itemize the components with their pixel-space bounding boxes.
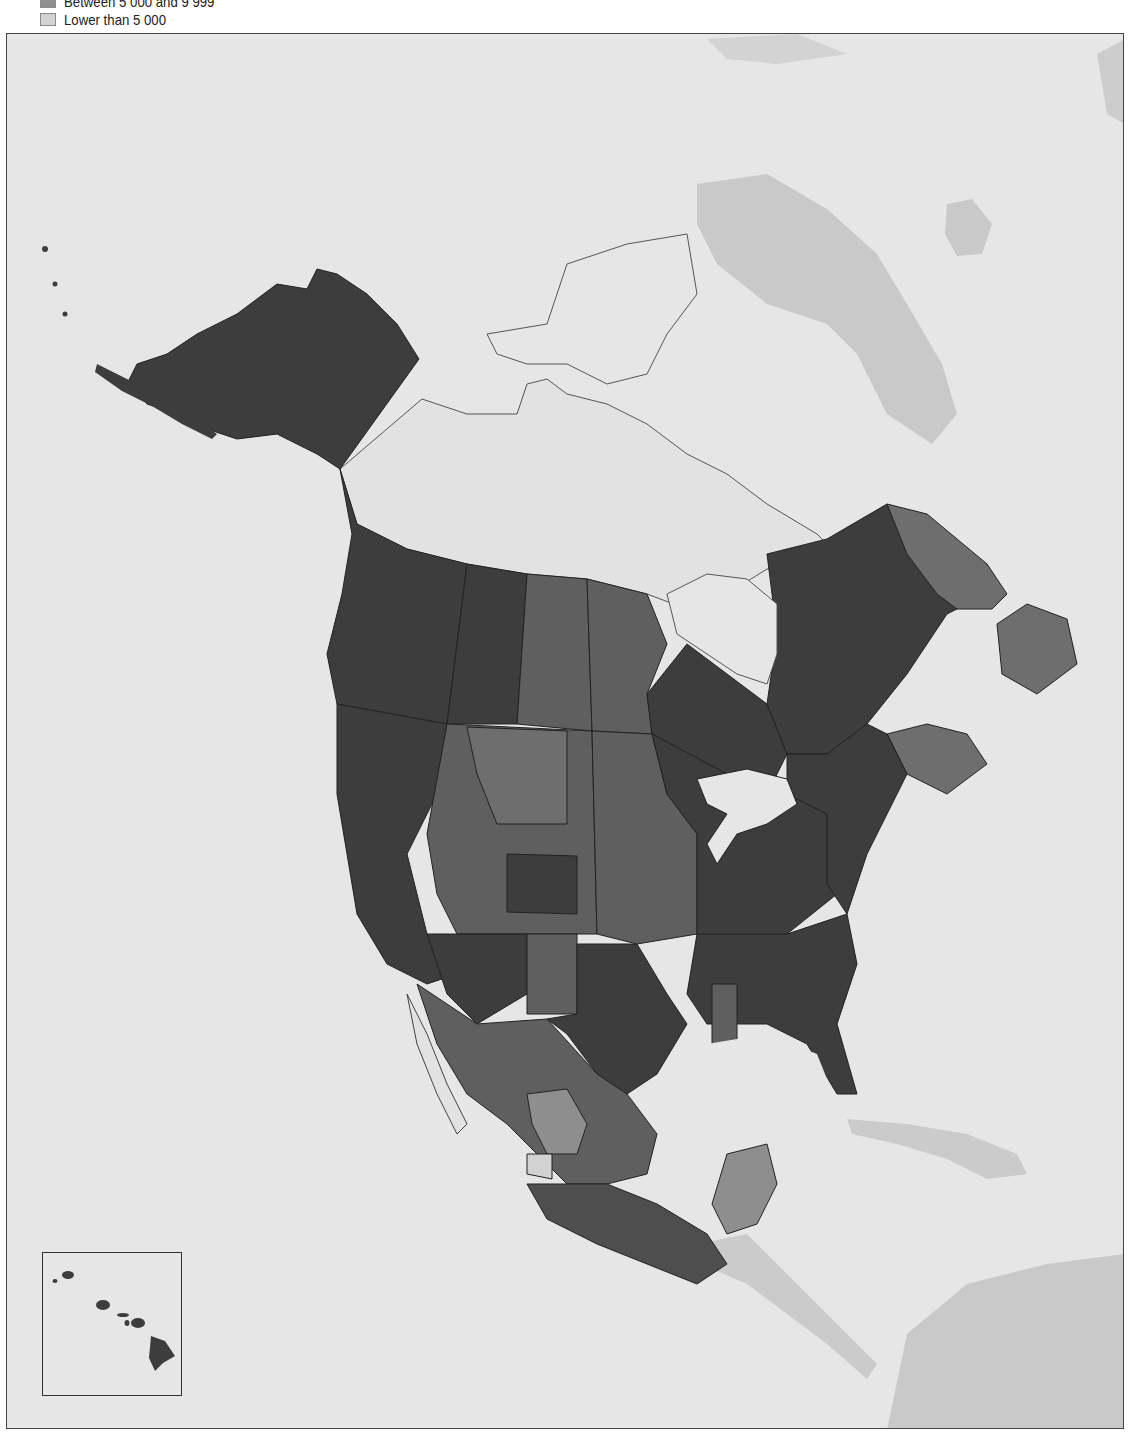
arctic-islands-ne bbox=[707, 34, 847, 64]
greenland bbox=[697, 174, 957, 444]
mexico-south bbox=[527, 1184, 727, 1284]
caribbean-islands bbox=[847, 1119, 1027, 1179]
map-legend: Between 5 000 and 9 999 Lower than 5 000 bbox=[40, 0, 235, 28]
legend-item: Between 5 000 and 9 999 bbox=[40, 0, 235, 10]
island bbox=[53, 282, 58, 287]
south-america bbox=[887, 1254, 1124, 1429]
legend-label: Between 5 000 and 9 999 bbox=[64, 0, 214, 10]
legend-item: Lower than 5 000 bbox=[40, 10, 235, 28]
maui bbox=[131, 1318, 145, 1328]
iceland bbox=[945, 199, 992, 256]
colorado bbox=[507, 854, 577, 914]
island bbox=[42, 246, 48, 252]
lanai bbox=[125, 1320, 130, 1326]
map-frame bbox=[6, 33, 1124, 1429]
kauai bbox=[62, 1271, 74, 1279]
mexico-very-light bbox=[527, 1154, 552, 1179]
new-mexico bbox=[527, 934, 577, 1014]
central-america bbox=[697, 1234, 877, 1379]
molokai bbox=[117, 1313, 129, 1317]
yucatan bbox=[712, 1144, 777, 1234]
island bbox=[63, 312, 68, 317]
legend-label: Lower than 5 000 bbox=[64, 11, 166, 28]
saskatchewan bbox=[517, 574, 592, 731]
hawaii-inset bbox=[42, 1252, 182, 1396]
oahu bbox=[96, 1300, 110, 1310]
legend-swatch bbox=[40, 0, 56, 8]
canada-arctic-islands bbox=[487, 234, 697, 384]
niihau bbox=[53, 1279, 58, 1283]
big-island bbox=[149, 1336, 175, 1371]
legend-swatch bbox=[40, 13, 56, 26]
north-america-map bbox=[7, 34, 1124, 1429]
hawaii-map bbox=[43, 1253, 180, 1394]
scandinavia-edge bbox=[1097, 39, 1124, 124]
mississippi bbox=[712, 984, 737, 1044]
newfoundland-island bbox=[997, 604, 1077, 694]
